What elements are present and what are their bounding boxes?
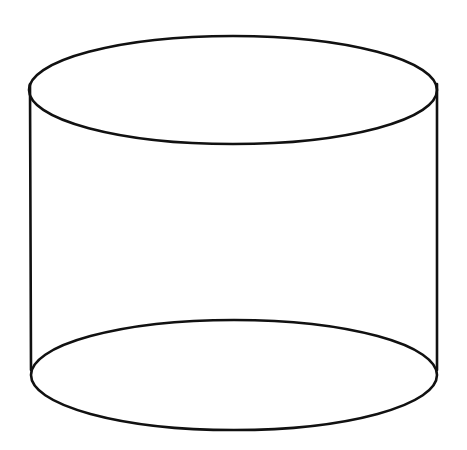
cylinder-diagram xyxy=(0,0,467,450)
cylinder-shape xyxy=(29,36,437,430)
cylinder-bottom-ellipse xyxy=(31,320,437,430)
cylinder-top-ellipse xyxy=(29,36,437,144)
cylinder-left-side xyxy=(30,84,31,370)
